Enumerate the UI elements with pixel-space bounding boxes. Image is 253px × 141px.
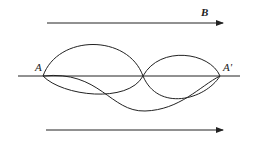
trajectory-2: [43, 55, 220, 94]
trajectory-3: [43, 75, 220, 111]
point-a-prime-label: A': [223, 61, 232, 73]
point-a-label: A: [35, 61, 42, 73]
field-label-b: B: [201, 6, 208, 18]
trajectory-1: [43, 45, 220, 99]
